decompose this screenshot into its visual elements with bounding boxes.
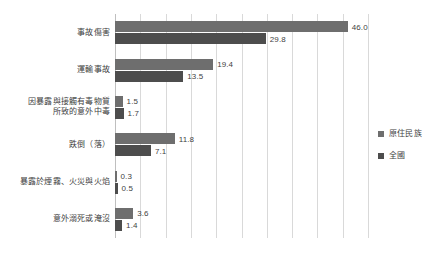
bar-group: 0.30.5	[115, 171, 368, 194]
bar-row: 1.7	[115, 108, 368, 119]
bar-row: 46.0	[115, 21, 368, 32]
bar-row: 0.5	[115, 183, 368, 194]
legend-label: 原住民族	[389, 129, 422, 138]
legend-swatch-icon	[378, 153, 384, 159]
category-label-line: 跌倒（落）	[0, 140, 110, 150]
bar-value-label: 1.5	[127, 97, 138, 106]
category-label-line: 運輸事故	[0, 65, 110, 75]
bar-group: 3.61.4	[115, 208, 368, 231]
bar-value-label: 13.5	[187, 72, 203, 81]
bar-row: 11.8	[115, 133, 368, 144]
legend: 原住民族全國	[378, 126, 438, 170]
bar-row: 0.3	[115, 171, 368, 182]
bar	[115, 133, 175, 144]
bar-chart: 事故傷害運輸事故因暴露與接觸有毒物質所致的意外中毒跌倒（落）暴露於煙霧、火災與火…	[0, 0, 439, 258]
bar-row: 7.1	[115, 145, 368, 156]
bar	[115, 108, 124, 119]
legend-label: 全國	[389, 151, 405, 160]
category-label: 因暴露與接觸有毒物質所致的意外中毒	[0, 97, 110, 117]
category-label: 跌倒（落）	[0, 140, 110, 150]
bar-row: 29.8	[115, 33, 368, 44]
category-label: 意外溺死或淹沒	[0, 214, 110, 224]
bar-value-label: 11.8	[179, 134, 194, 143]
bar-group: 11.87.1	[115, 133, 368, 156]
plot-area: 46.029.819.413.51.51.711.87.10.30.53.61.…	[115, 14, 368, 238]
bar-group: 1.51.7	[115, 96, 368, 119]
bar-row: 3.6	[115, 208, 368, 219]
legend-swatch-icon	[378, 131, 384, 137]
category-label-line: 所致的意外中毒	[0, 107, 110, 117]
bar-value-label: 19.4	[217, 60, 233, 69]
bar	[115, 21, 348, 32]
bar	[115, 96, 123, 107]
bars-layer: 46.029.819.413.51.51.711.87.10.30.53.61.…	[115, 14, 368, 238]
bar-value-label: 0.5	[122, 184, 133, 193]
bar-row: 1.4	[115, 220, 368, 231]
bar-row: 1.5	[115, 96, 368, 107]
bar-group: 19.413.5	[115, 59, 368, 82]
bar-value-label: 1.7	[128, 109, 139, 118]
bar	[115, 71, 183, 82]
bar	[115, 208, 133, 219]
category-label: 運輸事故	[0, 65, 110, 75]
gridline-50	[368, 14, 369, 238]
bar	[115, 59, 213, 70]
bar	[115, 33, 266, 44]
category-label: 事故傷害	[0, 28, 110, 38]
category-axis-labels: 事故傷害運輸事故因暴露與接觸有毒物質所致的意外中毒跌倒（落）暴露於煙霧、火災與火…	[0, 14, 110, 238]
bar-value-label: 0.3	[121, 172, 132, 181]
bar	[115, 171, 117, 182]
bar-value-label: 7.1	[155, 146, 166, 155]
bar-value-label: 3.6	[137, 209, 148, 218]
bar-value-label: 46.0	[352, 22, 368, 31]
bar	[115, 145, 151, 156]
legend-item[interactable]: 全國	[378, 148, 438, 163]
bar	[115, 183, 118, 194]
category-label-line: 因暴露與接觸有毒物質	[0, 97, 110, 107]
bar-value-label: 29.8	[270, 34, 286, 43]
category-label-line: 意外溺死或淹沒	[0, 214, 110, 224]
category-label-line: 事故傷害	[0, 28, 110, 38]
legend-item[interactable]: 原住民族	[378, 126, 438, 141]
bar-row: 19.4	[115, 59, 368, 70]
category-label: 暴露於煙霧、火災與火焰	[0, 177, 110, 187]
bar-group: 46.029.8	[115, 21, 368, 44]
bar	[115, 220, 122, 231]
bar-value-label: 1.4	[126, 221, 137, 230]
category-label-line: 暴露於煙霧、火災與火焰	[0, 177, 110, 187]
bar-row: 13.5	[115, 71, 368, 82]
